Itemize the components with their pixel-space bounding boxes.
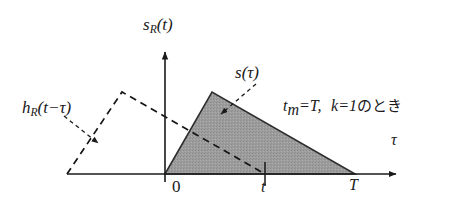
s-tau-label-main: s: [235, 63, 242, 82]
tau-axis-label: τ: [391, 132, 397, 148]
h-r-callout-leader: [64, 116, 98, 143]
h-r-label-main: h: [22, 98, 31, 117]
sr-axis-label-main: s: [143, 15, 150, 34]
condition-eq-2: =1: [338, 97, 357, 114]
h-r-label: hR(t−τ): [22, 99, 71, 119]
tick-label-T: T: [349, 177, 358, 193]
s-tau-label: s(τ): [235, 64, 259, 81]
h-r-label-sub: R: [31, 106, 38, 119]
tick-label-origin: 0: [172, 178, 181, 195]
condition-eq-1: =T,: [299, 97, 322, 114]
sr-axis-label-sub: R: [150, 23, 157, 36]
tick-label-t: t: [261, 179, 265, 195]
h-r-label-arg: (t−τ): [38, 98, 72, 117]
s-tau-label-arg: (τ): [242, 63, 259, 82]
condition-t-sub: m: [287, 101, 299, 118]
sr-axis-label-arg: (t): [157, 15, 173, 34]
condition-annotation: tm=T, k=1のとき: [283, 98, 402, 118]
sr-axis-label: sR(t): [143, 16, 173, 36]
condition-japanese-text: のとき: [357, 97, 402, 115]
signal-convolution-figure: sR(t) hR(t−τ) s(τ) tm=T, k=1のとき 0 t T τ: [0, 0, 460, 211]
